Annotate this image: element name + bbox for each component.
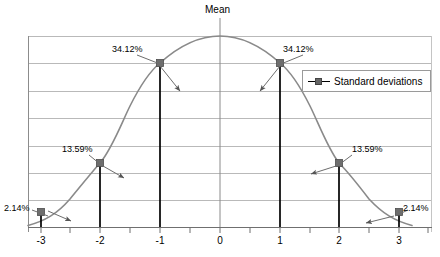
chart-legend: Standard deviations (302, 70, 431, 92)
arrow-13-right (311, 166, 336, 174)
mean-label: Mean (205, 5, 230, 15)
arrow-34-left (160, 66, 180, 91)
leader-34-right (281, 55, 303, 64)
x-tick-label-minus1: -1 (145, 236, 175, 246)
data-point-minus2 (97, 160, 104, 167)
arrow-34-right (260, 66, 280, 91)
annotation-2-right: 2.14% (403, 204, 429, 213)
x-tick-label-3: 3 (384, 236, 414, 246)
annotation-34-left: 34.12% (112, 45, 143, 54)
legend-entry-label: Standard deviations (334, 76, 422, 87)
annotation-13-left: 13.59% (62, 145, 93, 154)
annotation-13-right: 13.59% (352, 145, 383, 154)
x-tick-label-minus3: -3 (26, 236, 56, 246)
chart-plot-area (0, 0, 440, 257)
x-tick-label-0: 0 (205, 236, 235, 246)
x-tick-label-2: 2 (324, 236, 354, 246)
legend-marker-icon (308, 77, 330, 86)
arrow-2-right (366, 216, 394, 223)
x-tick-label-minus2: -2 (85, 236, 115, 246)
x-tick-label-1: 1 (265, 236, 295, 246)
arrow-13-left (103, 166, 124, 178)
annotation-2-left: 2.14% (4, 204, 30, 213)
x-axis-ticks (41, 228, 428, 234)
annotation-34-right: 34.12% (283, 45, 314, 54)
normal-distribution-chart: Mean 34.12% 34.12% 13.59% 13.59% 2.14% 2… (0, 0, 440, 257)
